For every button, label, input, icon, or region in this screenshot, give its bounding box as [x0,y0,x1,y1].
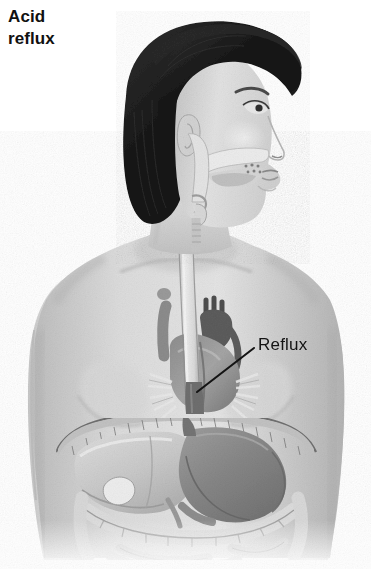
acid-reflux-figure: Acidreflux Reflux [0,0,371,569]
vessel-stump [157,288,171,300]
figure-title-line-2: reflux [8,29,55,48]
gallbladder [103,477,135,505]
figure-title: Acidreflux [8,6,55,50]
bottom-fade [0,520,371,569]
eye-iris [255,104,262,111]
les-highlight [191,384,192,413]
superior-vena-cava [163,306,166,356]
lower-esophageal-sphincter [185,382,204,414]
figure-title-line-1: Acid [8,7,45,26]
reflux-callout-label: Reflux [258,335,307,355]
anatomy-illustration [0,0,371,569]
